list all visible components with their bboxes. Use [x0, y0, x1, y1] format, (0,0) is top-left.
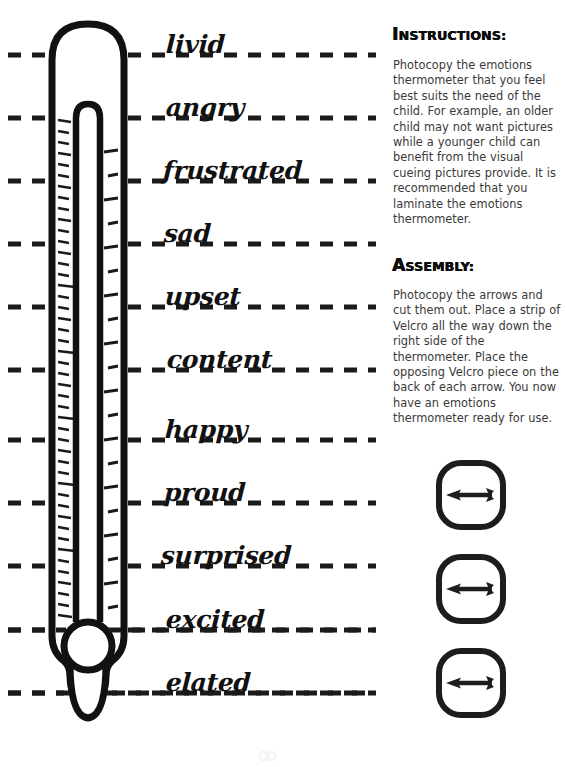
emotion-label-angry: angry [165, 95, 244, 120]
emotion-label-happy: happy [164, 417, 248, 442]
assembly-body: Photocopy the arrows and cut them out. P… [393, 288, 561, 427]
instructions-heading: INSTRUCTIONS: [392, 24, 506, 44]
emotion-label-livid: livid [165, 32, 225, 57]
emotion-label-upset: upset [164, 284, 241, 309]
page-artifact: oo [258, 745, 294, 759]
instructions-heading-lead: I [392, 24, 399, 44]
emotion-label-elated: elated [165, 670, 251, 695]
instructions-body: Photocopy the emotions thermometer that … [393, 58, 561, 227]
thermometer-panel: livid angry frustrated sad upset content… [0, 0, 385, 767]
emotion-label-sad: sad [163, 221, 211, 246]
emotion-label-frustrated: frustrated [162, 158, 302, 183]
instructions-heading-rest: NSTRUCTIONS: [399, 28, 507, 43]
assembly-heading-rest: SSEMBLY: [405, 259, 474, 274]
emotion-label-proud: proud [163, 480, 246, 505]
assembly-heading-lead: A [392, 255, 405, 275]
assembly-heading: ASSEMBLY: [392, 255, 474, 275]
emotion-label-surprised: surprised [160, 543, 292, 568]
arrow-card-1[interactable] [434, 458, 508, 532]
worksheet-page: livid angry frustrated sad upset content… [0, 0, 566, 767]
arrow-card-3[interactable] [434, 646, 508, 720]
emotion-label-excited: excited [165, 607, 265, 632]
emotion-label-content: content [166, 347, 272, 372]
thermometer-bulb-inner [64, 622, 112, 670]
arrow-card-2[interactable] [434, 552, 508, 626]
